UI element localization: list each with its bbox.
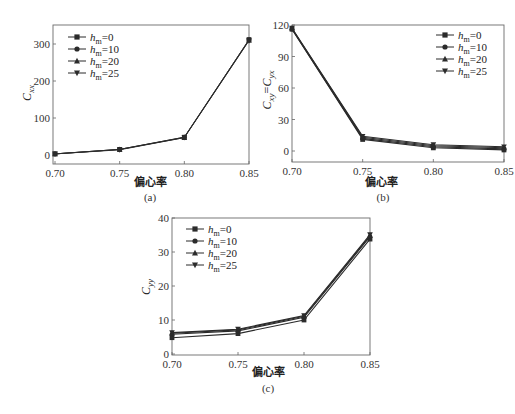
y-axis-label: Cxx xyxy=(20,85,36,101)
x-tick-label: 0.70 xyxy=(45,167,65,179)
x-axis-label: 偏心率 xyxy=(134,175,167,189)
panel-caption: (c) xyxy=(262,382,275,395)
chart-panel-c: 0.700.750.800.85010203040偏心率(c)Cyyhm=0hm… xyxy=(139,212,380,395)
x-tick-label: 0.80 xyxy=(175,167,195,179)
x-axis-label: 偏心率 xyxy=(365,175,398,189)
y-tick-label: 0 xyxy=(164,348,170,360)
y-tick-label: 40 xyxy=(158,212,170,224)
y-tick-label: 10 xyxy=(158,314,170,326)
plot-frame xyxy=(172,218,370,355)
chart-panel-a: 0.700.750.800.850100200300偏心率(a)Cxxhm=0h… xyxy=(20,25,259,204)
x-tick-label: 0.80 xyxy=(294,358,314,370)
chart-panel-b: 0.700.750.800.850306090120偏心率(b)Cxy=Cyxh… xyxy=(260,19,514,204)
legend-label: hm=25 xyxy=(208,259,237,274)
y-tick-label: 30 xyxy=(278,114,290,126)
series-line xyxy=(172,235,370,333)
series-line xyxy=(55,40,249,154)
legend-item: hm=25 xyxy=(68,67,119,82)
series-line xyxy=(172,237,370,335)
y-tick-label: 0 xyxy=(45,149,51,161)
legend-item: hm=25 xyxy=(186,259,237,274)
series-group xyxy=(169,232,373,340)
legend: hm=0hm=10hm=20hm=25 xyxy=(436,29,487,80)
x-tick-label: 0.70 xyxy=(282,165,302,177)
y-tick-label: 300 xyxy=(34,38,51,50)
panel-caption: (a) xyxy=(144,191,157,204)
series-line xyxy=(55,40,249,154)
y-tick-label: 0 xyxy=(284,145,290,157)
series-line xyxy=(55,41,249,154)
x-tick-label: 0.85 xyxy=(239,167,259,179)
x-tick-label: 0.85 xyxy=(494,165,514,177)
y-axis-label: Cxy=Cyx xyxy=(260,71,276,110)
series-line xyxy=(55,40,249,154)
y-tick-label: 90 xyxy=(278,51,290,63)
panel-caption: (b) xyxy=(377,191,390,204)
x-tick-label: 0.80 xyxy=(424,165,444,177)
y-tick-label: 100 xyxy=(34,112,51,124)
series-group xyxy=(52,37,252,157)
y-tick-label: 120 xyxy=(273,19,290,31)
legend: hm=0hm=10hm=20hm=25 xyxy=(68,31,119,82)
y-tick-label: 30 xyxy=(158,246,170,258)
figure: 0.700.750.800.850100200300偏心率(a)Cxxhm=0h… xyxy=(0,0,515,414)
legend: hm=0hm=10hm=20hm=25 xyxy=(186,223,237,274)
legend-item: hm=25 xyxy=(436,65,487,80)
x-axis-label: 偏心率 xyxy=(252,365,285,379)
legend-label: hm=25 xyxy=(458,65,487,80)
x-tick-label: 0.85 xyxy=(360,358,380,370)
y-tick-label: 200 xyxy=(34,75,51,87)
x-tick-label: 0.75 xyxy=(110,167,130,179)
y-tick-label: 20 xyxy=(158,280,170,292)
series-line xyxy=(172,236,370,334)
y-axis-label: Cyy xyxy=(139,279,155,295)
y-tick-label: 60 xyxy=(278,82,290,94)
legend-label: hm=25 xyxy=(90,67,119,82)
x-tick-label: 0.75 xyxy=(228,358,248,370)
